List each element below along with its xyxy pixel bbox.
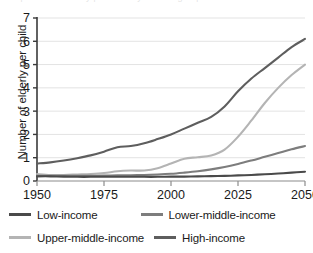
- line-chart: 0123456719501975200020252050: [0, 6, 313, 202]
- plot-area: Number of elderly per child 012345671950…: [0, 6, 313, 202]
- legend-swatch-upper-middle-income: [9, 236, 31, 239]
- y-axis-label: Number of elderly per child: [16, 7, 28, 177]
- legend-item-low-income[interactable]: Low-income: [9, 209, 98, 221]
- x-tick-label: 2050: [291, 188, 313, 202]
- x-tick-label: 2000: [157, 188, 185, 202]
- legend-label-lower-middle-income: Lower-middle-income: [169, 209, 276, 221]
- x-tick-label: 1975: [90, 188, 118, 202]
- x-tick-label: 1950: [23, 188, 51, 202]
- legend-item-high-income[interactable]: High-income: [154, 232, 245, 244]
- series-line-lower-middle-income: [37, 146, 305, 176]
- chart-legend: Low-income Lower-middle-income Upper-mid…: [0, 203, 313, 253]
- legend-label-low-income: Low-income: [37, 209, 98, 221]
- series-line-high-income: [37, 39, 305, 164]
- x-tick-label: 2025: [224, 188, 252, 202]
- legend-row-1: Low-income Lower-middle-income: [0, 203, 313, 226]
- legend-label-upper-middle-income: Upper-middle-income: [37, 232, 144, 244]
- legend-item-lower-middle-income[interactable]: Lower-middle-income: [141, 209, 276, 221]
- legend-swatch-high-income: [154, 236, 176, 239]
- legend-row-2: Upper-middle-income High-income: [0, 226, 313, 249]
- legend-item-upper-middle-income[interactable]: Upper-middle-income: [9, 232, 144, 244]
- chart-figure: Proportion of elderly per child by incom…: [0, 0, 313, 253]
- legend-swatch-lower-middle-income: [141, 213, 163, 216]
- legend-swatch-low-income: [9, 213, 31, 216]
- legend-label-high-income: High-income: [182, 232, 245, 244]
